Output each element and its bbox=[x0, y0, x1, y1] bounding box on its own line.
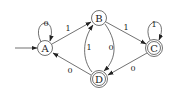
label-B-C: 1 bbox=[123, 23, 128, 32]
state-B-label: B bbox=[95, 13, 102, 24]
dfa-diagram: A B C D 0 1 1 0 1 1 0 0 bbox=[0, 0, 173, 94]
label-C-D: 0 bbox=[130, 64, 135, 73]
edge-C-D bbox=[108, 53, 147, 75]
edge-A-B bbox=[52, 22, 91, 44]
label-D-A: 0 bbox=[67, 66, 72, 75]
label-A-B: 1 bbox=[65, 24, 70, 33]
label-D-B: 1 bbox=[86, 43, 91, 52]
label-B-D: 0 bbox=[108, 43, 113, 52]
state-C-label: C bbox=[150, 43, 158, 54]
label-A-A: 0 bbox=[43, 19, 48, 28]
label-C-C: 1 bbox=[151, 20, 156, 29]
state-A-label: A bbox=[40, 43, 49, 54]
state-D-label: D bbox=[95, 74, 103, 85]
